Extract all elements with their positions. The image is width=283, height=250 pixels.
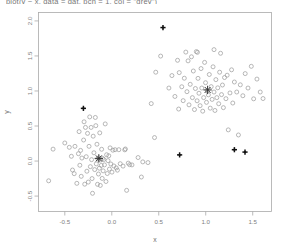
data-point (197, 91, 201, 95)
data-point (104, 180, 108, 184)
x-tick-label: 0.5 (154, 218, 163, 225)
data-points-layer (47, 25, 265, 195)
data-point (261, 97, 265, 101)
x-axis-label: x (153, 236, 157, 243)
data-point (246, 86, 250, 90)
series-outlier-markers (81, 25, 248, 158)
y-tick-label: 0.0 (26, 156, 33, 165)
data-point (96, 172, 100, 176)
y-tick-label: 1.5 (26, 51, 33, 60)
data-point (159, 54, 163, 58)
data-point (51, 147, 55, 151)
data-point (181, 99, 185, 103)
x-tick-label: 0.0 (107, 218, 116, 225)
data-point (180, 85, 184, 89)
data-point (77, 130, 81, 134)
data-point (252, 97, 256, 101)
data-point (170, 74, 174, 78)
data-point (243, 72, 247, 76)
data-point (94, 162, 98, 166)
data-point (110, 170, 114, 174)
data-point (235, 90, 239, 94)
data-point (146, 161, 150, 165)
data-point (130, 163, 134, 167)
cluster-centroid-marker (203, 86, 211, 94)
outlier-cross-marker (242, 149, 247, 154)
data-point (177, 71, 181, 75)
data-point (202, 96, 206, 100)
data-point (187, 103, 191, 107)
data-point (90, 177, 94, 181)
data-point (98, 131, 102, 135)
x-axis-ticks: -0.50.00.51.01.5 (59, 212, 257, 225)
x-tick-label: 1.5 (248, 218, 257, 225)
data-point (199, 67, 203, 71)
data-point (228, 91, 232, 95)
data-point (217, 102, 221, 106)
data-point (87, 144, 91, 148)
data-point (106, 159, 110, 163)
data-point (82, 120, 86, 124)
data-point (105, 172, 109, 176)
data-point (91, 134, 95, 138)
plot-frame (39, 13, 272, 212)
data-point (88, 115, 92, 119)
data-point (192, 108, 196, 112)
data-point (208, 106, 212, 110)
data-point (195, 99, 199, 103)
data-point (73, 144, 77, 148)
data-point (121, 164, 125, 168)
data-point (94, 124, 98, 128)
data-point (173, 94, 177, 98)
data-point (185, 90, 189, 94)
data-point (82, 138, 86, 142)
data-point (79, 148, 83, 152)
data-point (223, 76, 227, 80)
data-point (200, 86, 204, 90)
plot-canvas: -0.50.00.51.01.5 -0.50.00.51.01.52.0 x y (0, 0, 283, 250)
data-point (63, 141, 67, 145)
data-point (103, 122, 107, 126)
data-point (93, 115, 97, 119)
y-axis-label: y (3, 110, 11, 114)
data-point (211, 65, 215, 69)
data-point (75, 181, 79, 185)
data-point (101, 169, 105, 173)
data-point (201, 109, 205, 113)
data-point (100, 176, 104, 180)
data-point (196, 76, 200, 80)
series-cluster-1-points (47, 102, 157, 196)
data-point (154, 70, 158, 74)
data-point (232, 80, 236, 84)
data-point (186, 59, 190, 63)
data-point (220, 93, 224, 97)
data-point (84, 155, 88, 159)
data-point (100, 147, 104, 151)
data-point (80, 156, 84, 160)
data-point (91, 191, 95, 195)
data-point (206, 93, 210, 97)
y-tick-label: 1.0 (26, 86, 33, 95)
outlier-cross-marker (160, 25, 165, 30)
data-point (226, 128, 230, 132)
x-tick-label: -0.5 (59, 218, 70, 225)
data-point (230, 68, 234, 72)
data-point (207, 73, 211, 77)
data-point (141, 160, 145, 164)
data-point (191, 69, 195, 73)
data-point (210, 97, 214, 101)
x-tick-label: 1.0 (201, 218, 210, 225)
data-point (177, 107, 181, 111)
data-point (182, 76, 186, 80)
data-point (85, 169, 89, 173)
data-point (89, 125, 93, 129)
data-point (204, 81, 208, 85)
data-point (117, 148, 121, 152)
data-point (67, 145, 71, 149)
data-point (86, 180, 90, 184)
data-point (219, 51, 223, 55)
data-point (241, 94, 245, 98)
data-point (224, 97, 228, 101)
outlier-cross-marker (81, 106, 86, 111)
data-point (249, 64, 253, 68)
